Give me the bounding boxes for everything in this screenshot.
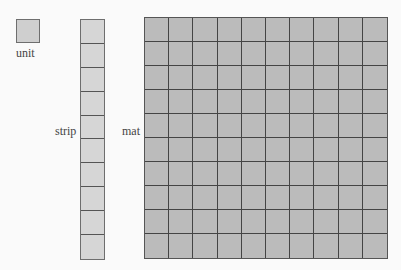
mat-cell — [169, 66, 193, 90]
mat-cell — [363, 186, 387, 210]
mat-cell — [145, 162, 169, 186]
mat-cell — [193, 42, 217, 66]
mat-cell — [145, 234, 169, 258]
mat-cell — [218, 138, 242, 162]
mat-cell — [242, 138, 266, 162]
mat-cell — [314, 90, 338, 114]
mat-cell — [218, 114, 242, 138]
mat-cell — [242, 234, 266, 258]
mat-cell — [339, 162, 363, 186]
mat-cell — [314, 18, 338, 42]
mat-cell — [193, 138, 217, 162]
mat-cell — [363, 234, 387, 258]
mat-cell — [145, 114, 169, 138]
mat-cell — [339, 42, 363, 66]
strip-cell — [81, 44, 104, 68]
mat-cell — [363, 210, 387, 234]
mat-cell — [290, 210, 314, 234]
strip-cell — [81, 139, 104, 163]
strip-cell — [81, 187, 104, 211]
mat-cell — [169, 234, 193, 258]
mat-cell — [145, 90, 169, 114]
strip-cell — [81, 92, 104, 116]
mat-cell — [218, 186, 242, 210]
mat-cell — [314, 210, 338, 234]
strip-cell — [81, 163, 104, 187]
mat-cell — [218, 90, 242, 114]
mat-cell — [218, 234, 242, 258]
mat-cell — [339, 186, 363, 210]
mat-cell — [169, 114, 193, 138]
unit-label: unit — [16, 46, 35, 61]
mat-cell — [363, 114, 387, 138]
mat-label: mat — [122, 124, 140, 139]
mat-cell — [266, 18, 290, 42]
mat-cell — [290, 18, 314, 42]
mat-cell — [266, 66, 290, 90]
mat-cell — [339, 18, 363, 42]
mat-cell — [363, 90, 387, 114]
mat-cell — [193, 234, 217, 258]
strip-label: strip — [55, 124, 76, 139]
mat-cell — [314, 234, 338, 258]
mat-cell — [290, 234, 314, 258]
mat-cell — [242, 210, 266, 234]
mat-cell — [242, 114, 266, 138]
mat-cell — [266, 162, 290, 186]
mat-cell — [339, 90, 363, 114]
mat-grid — [144, 17, 388, 259]
mat-cell — [314, 42, 338, 66]
mat-cell — [145, 18, 169, 42]
mat-cell — [193, 186, 217, 210]
mat-cell — [314, 114, 338, 138]
mat-cell — [169, 162, 193, 186]
mat-cell — [242, 162, 266, 186]
mat-cell — [266, 138, 290, 162]
mat-cell — [145, 210, 169, 234]
mat-cell — [193, 66, 217, 90]
mat-cell — [314, 66, 338, 90]
mat-cell — [169, 186, 193, 210]
mat-cell — [193, 18, 217, 42]
mat-cell — [314, 138, 338, 162]
mat-cell — [266, 42, 290, 66]
mat-cell — [242, 18, 266, 42]
mat-cell — [193, 162, 217, 186]
mat-cell — [218, 18, 242, 42]
strip-cell — [81, 211, 104, 235]
mat-cell — [363, 162, 387, 186]
mat-cell — [242, 42, 266, 66]
strip-cell — [81, 20, 104, 44]
mat-cell — [290, 42, 314, 66]
mat-cell — [242, 66, 266, 90]
mat-cell — [339, 138, 363, 162]
mat-cell — [290, 66, 314, 90]
mat-cell — [218, 42, 242, 66]
mat-cell — [266, 114, 290, 138]
mat-cell — [266, 186, 290, 210]
mat-cell — [363, 66, 387, 90]
mat-cell — [193, 90, 217, 114]
mat-cell — [242, 186, 266, 210]
mat-cell — [169, 90, 193, 114]
mat-cell — [363, 18, 387, 42]
strip-rod — [80, 19, 105, 260]
mat-cell — [145, 42, 169, 66]
mat-cell — [169, 18, 193, 42]
strip-cell — [81, 235, 104, 259]
mat-cell — [290, 114, 314, 138]
mat-cell — [339, 114, 363, 138]
mat-cell — [145, 138, 169, 162]
mat-cell — [290, 186, 314, 210]
mat-cell — [363, 42, 387, 66]
mat-cell — [145, 186, 169, 210]
mat-cell — [218, 210, 242, 234]
mat-cell — [290, 90, 314, 114]
mat-cell — [169, 138, 193, 162]
mat-cell — [266, 210, 290, 234]
mat-cell — [193, 114, 217, 138]
mat-cell — [339, 210, 363, 234]
mat-cell — [266, 90, 290, 114]
mat-cell — [314, 162, 338, 186]
mat-cell — [314, 186, 338, 210]
